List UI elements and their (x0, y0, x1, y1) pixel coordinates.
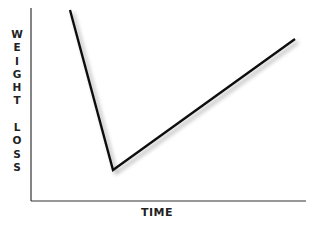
chart-canvas (0, 0, 314, 225)
y-axis-label-letter: G (10, 68, 24, 81)
x-axis-label: TIME (0, 206, 314, 219)
y-axis-label-letter: S (10, 148, 24, 161)
y-axis-label-letter: I (10, 55, 24, 68)
y-axis-label-letter: H (10, 81, 24, 94)
y-axis-label-letter: L (10, 121, 24, 134)
weight-loss-line (70, 10, 295, 170)
y-axis-label-letter: S (10, 161, 24, 174)
y-axis-label-letter: W (10, 28, 24, 41)
y-axis-label-letter: O (10, 134, 24, 147)
y-axis-label-letter: E (10, 41, 24, 54)
y-axis-label-letter: T (10, 94, 24, 107)
y-axis-label: WEIGHT LOSS (10, 28, 24, 174)
y-axis-label-letter (10, 108, 24, 121)
